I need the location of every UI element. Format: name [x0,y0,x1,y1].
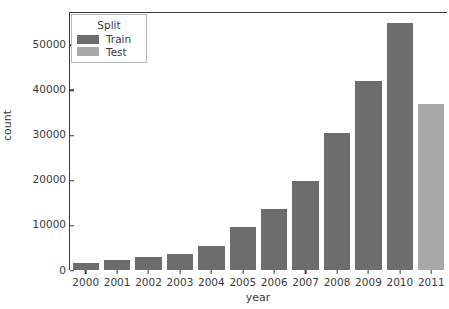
plot-area: 01000020000300004000050000 2000200120022… [69,12,447,270]
legend-title: Split [77,19,141,31]
x-axis-tick: 2002 [135,270,162,288]
x-axis-title: year [69,292,447,303]
x-axis-tick-label: 2002 [135,274,162,288]
x-axis-tick-label: 2001 [104,274,131,288]
x-axis-tick: 2011 [418,270,445,288]
bar-slot [259,13,290,270]
x-axis-tick-label: 2010 [387,274,414,288]
bar-slot [227,13,258,270]
y-axis-tick: 50000 [33,39,70,50]
x-axis-tick-label: 2011 [418,274,445,288]
x-axis-tick-label: 2009 [355,274,382,288]
x-axis-tick: 2005 [229,270,256,288]
x-axis-tick-label: 2006 [261,274,288,288]
legend-item[interactable]: Test [77,47,141,58]
bar-slot [196,13,227,270]
bar[interactable] [418,104,444,270]
x-axis-tick: 2004 [198,270,225,288]
bar[interactable] [355,81,381,270]
legend-entries: TrainTest [77,34,141,57]
x-axis-tick-label: 2007 [292,274,319,288]
bar-slot [164,13,195,270]
x-axis-tick: 2008 [324,270,351,288]
x-axis-tick: 2009 [355,270,382,288]
legend: Split TrainTest [71,14,147,63]
x-axis-tick-label: 2003 [167,274,194,288]
bar[interactable] [261,209,287,270]
bar-slot [290,13,321,270]
bar[interactable] [230,227,256,270]
bar[interactable] [167,254,193,270]
x-axis-tick-label: 2004 [198,274,225,288]
x-axis-tick: 2003 [167,270,194,288]
bar-chart-figure: count 01000020000300004000050000 2000200… [0,0,449,309]
x-axis-tick: 2001 [104,270,131,288]
x-axis-tick: 2010 [387,270,414,288]
y-axis-tick-label: 10000 [33,220,70,231]
bar-slot [353,13,384,270]
y-axis-tick-label: 30000 [33,130,70,141]
x-axis-tick-label: 2005 [229,274,256,288]
bar[interactable] [324,133,350,270]
legend-item-label: Train [106,34,131,45]
y-axis-tick-label: 50000 [33,39,70,50]
bar[interactable] [198,246,224,270]
y-axis-title: count [2,110,13,141]
legend-item-label: Test [106,47,127,58]
y-axis-tick-label: 40000 [33,84,70,95]
y-axis-tick: 0 [59,265,70,276]
legend-color-swatch [77,47,99,56]
bar[interactable] [387,23,413,270]
x-axis-tick-label: 2000 [72,274,99,288]
bar[interactable] [135,257,161,270]
y-axis-tick: 10000 [33,220,70,231]
bar[interactable] [292,181,318,270]
bar[interactable] [104,260,130,270]
y-axis-tick-label: 20000 [33,175,70,186]
legend-item[interactable]: Train [77,34,141,45]
y-axis-tick: 20000 [33,175,70,186]
bar-slot [384,13,415,270]
legend-color-swatch [77,35,99,44]
x-axis-tick: 2006 [261,270,288,288]
y-axis-tick: 30000 [33,130,70,141]
x-axis-tick: 2000 [72,270,99,288]
y-axis-tick: 40000 [33,84,70,95]
bar-slot [416,13,447,270]
x-axis-tick: 2007 [292,270,319,288]
y-axis-tick-label: 0 [59,265,70,276]
bar[interactable] [73,263,99,270]
x-axis-tick-label: 2008 [324,274,351,288]
bar-slot [321,13,352,270]
